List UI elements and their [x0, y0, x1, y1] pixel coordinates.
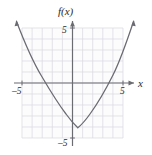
x-axis-arrow-icon: [129, 81, 135, 86]
y-tick-label-bottom: –5: [57, 138, 68, 148]
graph-figure: f(x) x 5 –5 –5 5: [0, 0, 152, 155]
y-tick-label-top: 5: [62, 25, 67, 35]
parabola-svg: f(x) x 5 –5 –5 5: [0, 0, 152, 155]
curve-left-arrow-icon: [15, 20, 19, 26]
x-tick-label-left: –5: [11, 86, 22, 96]
x-axis-label: x: [137, 77, 143, 89]
curve-right-arrow-icon: [131, 20, 135, 26]
y-axis-arrow-icon: [70, 21, 75, 27]
x-tick-label-right: 5: [120, 86, 125, 96]
y-axis-label: f(x): [58, 5, 74, 18]
